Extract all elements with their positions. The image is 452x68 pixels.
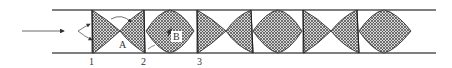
internal-flow-arrow-2 <box>148 45 155 49</box>
cell-5 <box>226 10 253 53</box>
cell-7 <box>303 10 331 53</box>
station-label-3: 3 <box>197 57 202 67</box>
internal-flow-arrow-1 <box>111 17 131 22</box>
pipe-flow-diagram: 1 2 3 A B <box>0 0 452 68</box>
region-label-b: B <box>173 32 180 42</box>
cell-9 <box>359 10 411 53</box>
cell-4 <box>197 10 226 53</box>
cell-8 <box>331 10 359 53</box>
region-label-a: A <box>119 40 126 50</box>
diverge-arrow-lower <box>78 31 92 40</box>
station-label-2: 2 <box>141 57 146 67</box>
diagram-canvas <box>0 0 452 68</box>
cell-1 <box>92 10 120 53</box>
diverge-arrow-upper <box>78 24 90 31</box>
station-label-1: 1 <box>89 57 94 67</box>
cell-6 <box>253 10 302 53</box>
